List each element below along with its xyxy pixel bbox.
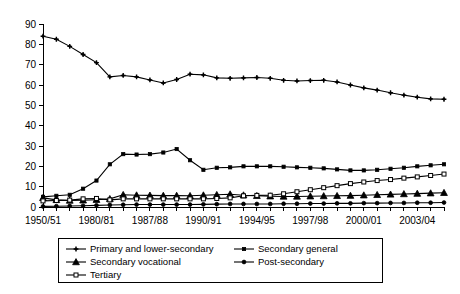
legend-label: Secondary general bbox=[258, 244, 338, 254]
series-secondary-general bbox=[41, 147, 445, 198]
legend-item[interactable]: Secondary vocational bbox=[65, 257, 233, 267]
x-tick-label: 1997/98 bbox=[292, 215, 329, 226]
legend-item[interactable]: Tertiary bbox=[65, 270, 233, 280]
legend-label: Post-secondary bbox=[258, 257, 324, 267]
x-axis-labels: 1950/511980/811987/881990/911994/951997/… bbox=[25, 215, 436, 226]
x-tick-label: 1987/88 bbox=[132, 215, 169, 226]
x-tick-label: 1980/81 bbox=[78, 215, 115, 226]
series-primary-and-lower-secondary bbox=[41, 34, 447, 102]
legend-item[interactable]: Post-secondary bbox=[233, 257, 376, 267]
line-chart: 0102030405060708090 1950/511980/811987/8… bbox=[0, 0, 460, 294]
x-tick-label: 1990/91 bbox=[185, 215, 222, 226]
y-tick-label: 30 bbox=[25, 141, 37, 152]
y-tick-label: 50 bbox=[25, 100, 37, 111]
chart-legend: Primary and lower-secondarySecondary gen… bbox=[58, 238, 383, 283]
x-tick-label: 2003/04 bbox=[399, 215, 436, 226]
x-tick-label: 1994/95 bbox=[239, 215, 276, 226]
legend-item[interactable]: Primary and lower-secondary bbox=[65, 244, 233, 254]
y-tick-label: 60 bbox=[25, 80, 37, 91]
y-tick-label: 80 bbox=[25, 39, 37, 50]
y-tick-label: 90 bbox=[25, 19, 37, 30]
legend-item[interactable]: Secondary general bbox=[233, 244, 376, 254]
legend-label: Secondary vocational bbox=[90, 257, 181, 267]
legend-label: Primary and lower-secondary bbox=[90, 244, 214, 254]
y-axis-ticks: 0102030405060708090 bbox=[25, 19, 43, 213]
legend-marker-circle-icon bbox=[233, 257, 255, 267]
legend-marker-triangle-icon bbox=[65, 257, 87, 267]
plot-area: 0102030405060708090 1950/511980/811987/8… bbox=[0, 0, 460, 240]
legend-marker-plus-diamond-icon bbox=[65, 244, 87, 254]
y-tick-label: 0 bbox=[30, 202, 36, 213]
legend-marker-square-icon bbox=[65, 270, 87, 280]
y-tick-label: 70 bbox=[25, 59, 37, 70]
x-tick-label: 1950/51 bbox=[25, 215, 62, 226]
legend-marker-square-icon bbox=[233, 244, 255, 254]
x-tick-label: 2000/01 bbox=[346, 215, 383, 226]
y-tick-label: 40 bbox=[25, 120, 37, 131]
series-layer bbox=[40, 34, 448, 208]
series-tertiary bbox=[41, 172, 446, 203]
y-tick-label: 20 bbox=[25, 161, 37, 172]
y-tick-label: 10 bbox=[25, 181, 37, 192]
legend-label: Tertiary bbox=[90, 270, 121, 280]
x-axis-ticks bbox=[43, 207, 444, 211]
